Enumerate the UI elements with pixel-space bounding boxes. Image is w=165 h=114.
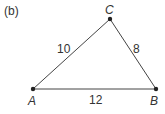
side-cb-length: 8 [133,42,140,56]
panel-label: (b) [4,4,19,18]
vertex-a-label: A [27,94,36,108]
vertex-c-label: C [105,3,114,17]
vertex-c-point [108,17,112,21]
vertex-a-point [31,87,35,91]
side-ac [33,19,110,89]
side-ac-length: 10 [57,42,71,56]
side-ab-length: 12 [89,93,103,107]
vertex-b-label: B [150,94,158,108]
triangle-diagram: (b) A B C 10 8 12 [0,0,165,114]
vertex-b-point [154,87,158,91]
